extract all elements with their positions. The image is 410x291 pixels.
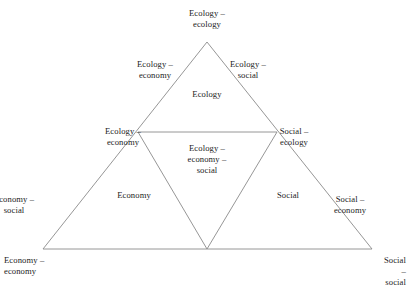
label-economy-economy: Economy – economy bbox=[4, 255, 44, 277]
label-social-ecology: Social – ecology bbox=[280, 126, 309, 148]
label-ecology-social: Ecology – social bbox=[230, 59, 266, 81]
region-label-ecology: Ecology bbox=[192, 89, 221, 100]
sustainability-triangle-diagram: Ecology – ecology Economy – economy Soci… bbox=[0, 0, 410, 291]
label-social-economy: Social – economy bbox=[334, 194, 366, 216]
region-label-economy: Economy bbox=[117, 190, 151, 201]
label-social-social: Social – social bbox=[384, 255, 406, 289]
label-ecology-ecology: Ecology – ecology bbox=[189, 8, 225, 30]
region-label-ecology-economy-social: Ecology – economy – social bbox=[188, 143, 227, 177]
label-economy-social: Economy – social bbox=[0, 194, 34, 216]
label-ecology-economy-upper: Ecology – economy bbox=[137, 59, 173, 81]
label-ecology-economy-mid: Ecology – economy bbox=[105, 126, 141, 148]
region-label-social: Social bbox=[277, 190, 299, 201]
